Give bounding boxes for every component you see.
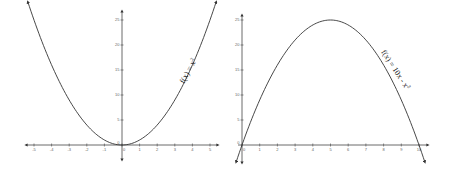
y-tick-label: 15 bbox=[115, 67, 120, 72]
chart-parabola-up: -5-4-3-2-1012345 5101520250 f(x) = x2 bbox=[26, 2, 218, 160]
y-tick-label: 25 bbox=[235, 17, 240, 22]
y-tick-label: 20 bbox=[235, 42, 240, 47]
x-tick-label: -2 bbox=[85, 147, 89, 152]
x-tick-label: 5 bbox=[329, 147, 332, 152]
x-tick-label: 2 bbox=[156, 147, 159, 152]
x-tick-label: 2 bbox=[276, 147, 279, 152]
y-tick-label: 5 bbox=[117, 117, 120, 122]
x-tick-label: 6 bbox=[347, 147, 350, 152]
x-tick-label: -4 bbox=[50, 147, 54, 152]
x-tick-label: 3 bbox=[294, 147, 297, 152]
x-tick-label: 4 bbox=[191, 147, 194, 152]
x-tick-label: 5 bbox=[209, 147, 212, 152]
y-tick-label: 25 bbox=[115, 17, 120, 22]
x-tick-label: 0 bbox=[123, 147, 126, 152]
chart-parabola-down: 012345678910 5101520250 f(x) = 10x - x2 bbox=[235, 15, 428, 163]
y-tick-label: 15 bbox=[235, 67, 240, 72]
x-tick-label: 3 bbox=[174, 147, 177, 152]
curve-10x-minus-x-squared bbox=[236, 20, 425, 162]
x-tick-label: -3 bbox=[67, 147, 71, 152]
x-tick-label: 8 bbox=[382, 147, 385, 152]
x-tick-label: -5 bbox=[32, 147, 36, 152]
x-tick-label: 1 bbox=[138, 147, 141, 152]
function-label: f(x) = x2 bbox=[178, 56, 199, 85]
origin-label: 0 bbox=[237, 140, 240, 145]
x-tick-label: 1 bbox=[259, 147, 262, 152]
x-tick-label: 4 bbox=[312, 147, 315, 152]
y-tick-label: 20 bbox=[115, 42, 120, 47]
y-tick-label: 10 bbox=[115, 92, 120, 97]
x-tick-label: -1 bbox=[103, 147, 107, 152]
y-tick-label: 5 bbox=[237, 117, 240, 122]
x-tick-label: 7 bbox=[365, 147, 368, 152]
function-label: f(x) = 10x - x2 bbox=[379, 48, 412, 92]
charts-canvas: -5-4-3-2-1012345 5101520250 f(x) = x2 01… bbox=[0, 0, 451, 177]
x-tick-label: 9 bbox=[400, 147, 403, 152]
y-tick-label: 10 bbox=[235, 92, 240, 97]
x-tick-label: 0 bbox=[243, 147, 246, 152]
